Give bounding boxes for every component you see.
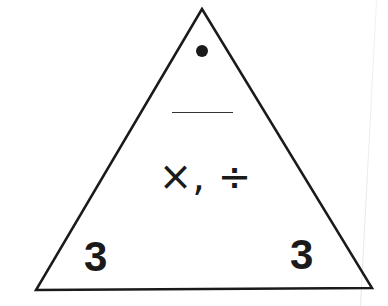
operations-label: ×, ÷ (150, 152, 260, 200)
bottom-left-number: 3 (84, 236, 107, 278)
answer-blank-line (172, 112, 233, 113)
bottom-right-number: 3 (290, 234, 313, 276)
top-dot (196, 45, 208, 57)
